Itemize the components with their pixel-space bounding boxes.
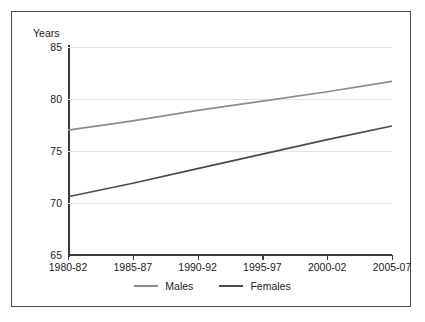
legend-item-males[interactable]: Males [134, 280, 193, 292]
x-tick-label: 1980-82 [49, 261, 88, 273]
series-line-females [68, 126, 392, 197]
x-tick-label: 1995-97 [243, 261, 282, 273]
x-tick-mark [133, 255, 134, 260]
x-tick-label: 2005-07 [373, 261, 412, 273]
data-lines [0, 0, 425, 322]
x-tick-label: 1985-87 [114, 261, 153, 273]
x-tick-mark [198, 255, 199, 260]
x-tick-mark [327, 255, 328, 260]
legend-label: Females [250, 280, 290, 292]
x-tick-mark [262, 255, 263, 260]
x-tick-mark [68, 255, 69, 260]
x-tick-label: 1990-92 [178, 261, 217, 273]
x-tick-label: 2000-02 [308, 261, 347, 273]
legend-label: Males [165, 280, 193, 292]
series-line-males [68, 81, 392, 130]
chart-legend: MalesFemales [0, 280, 425, 292]
legend-swatch-icon [219, 285, 243, 287]
x-tick-mark [392, 255, 393, 260]
chart-root: Years 8580757065 1980-821985-871990-9219… [0, 0, 425, 322]
legend-swatch-icon [134, 285, 158, 287]
legend-item-females[interactable]: Females [219, 280, 290, 292]
